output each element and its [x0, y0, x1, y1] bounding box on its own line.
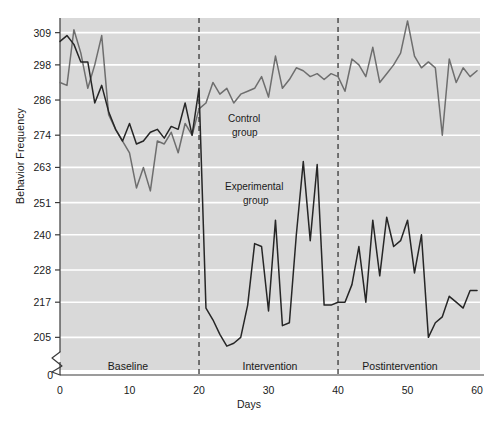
x-tick-label: 10 — [124, 384, 136, 396]
y-tick-label: 274 — [33, 129, 51, 141]
y-axis-zero-label: 0 — [47, 369, 53, 381]
y-tick-label: 309 — [33, 27, 51, 39]
phase-label-postintervention: Postintervention — [362, 360, 437, 372]
experimental-group-label-line2: group — [243, 195, 269, 206]
chart-figure: Behavior Frequency Days 2052172282402512… — [0, 0, 498, 421]
x-axis-ticks: 102030405060 — [124, 375, 483, 396]
y-tick-label: 240 — [33, 229, 51, 241]
y-tick-label: 217 — [33, 296, 51, 308]
y-tick-label: 228 — [33, 264, 51, 276]
phase-label-baseline: Baseline — [108, 360, 148, 372]
y-axis-ticks: 205217228240251263274286298309 — [33, 27, 60, 344]
x-tick-label: 20 — [193, 384, 205, 396]
x-tick-label: 40 — [332, 384, 344, 396]
y-tick-label: 298 — [33, 59, 51, 71]
x-tick-label: 50 — [402, 384, 414, 396]
phase-label-intervention: Intervention — [243, 360, 298, 372]
y-tick-label: 205 — [33, 331, 51, 343]
x-tick-label: 30 — [263, 384, 275, 396]
y-tick-label: 251 — [33, 197, 51, 209]
line-chart-svg: 205217228240251263274286298309 102030405… — [0, 0, 498, 421]
control-group-label-line1: Control — [228, 113, 260, 124]
x-tick-label: 60 — [471, 384, 483, 396]
experimental-group-label-line1: Experimental — [225, 181, 283, 192]
y-tick-label: 263 — [33, 161, 51, 173]
x-axis-zero-label: 0 — [57, 384, 63, 396]
control-group-label-line2: group — [232, 127, 258, 138]
y-axis-title: Behavior Frequency — [14, 76, 26, 236]
y-tick-label: 286 — [33, 94, 51, 106]
x-axis-title: Days — [0, 398, 498, 410]
plot-background — [60, 18, 480, 370]
